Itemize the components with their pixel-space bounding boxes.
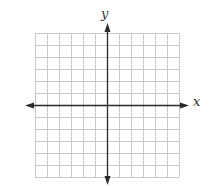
y-axis [105, 23, 111, 185]
y-axis-label: y [101, 6, 108, 21]
y-axis-up-arrow-icon [105, 23, 111, 32]
x-axis-left-arrow-icon [25, 103, 34, 109]
coordinate-plane [0, 0, 213, 186]
x-axis-right-arrow-icon [180, 103, 189, 109]
x-axis-label: x [193, 94, 200, 109]
y-axis-down-arrow-icon [105, 176, 111, 185]
